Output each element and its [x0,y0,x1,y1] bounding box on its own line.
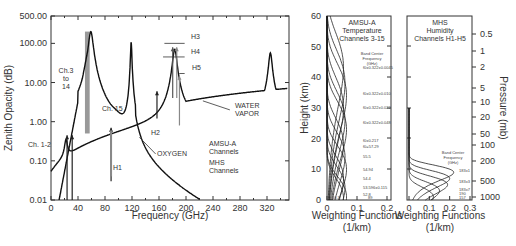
amsu-channel-label: f0±0.322±0.010 [363,91,392,96]
amsu-channel-label: 55.5 [363,154,372,159]
mhs-title-2: Humidity [426,27,454,35]
amsu-channel-label: f0±0.217 [363,138,379,143]
label-ch15: Ch. 15 [102,105,123,112]
amsu-weighting-curves [327,16,347,200]
pressure-tick-label: 100 [480,140,495,150]
pressure-tick-label: 5 [480,83,485,93]
height-axis-label: Height (km) [299,82,310,134]
pressure-axis-label: Pressure (mb) [498,76,509,139]
label-ch1-2: Ch. 1-2 [28,141,51,148]
ch3-14-band [85,32,90,134]
amsu-y-tick-label: 20 [311,134,321,144]
mhs-bcf-3: (GHz) [448,160,459,165]
amsu-channel-label: 54.94 [363,167,374,172]
amsu-y-tick-label: 10 [311,164,321,174]
main-x-tick-label: 320 [259,203,274,213]
amsu-y-tick-label: 30 [311,103,321,113]
main-x-tick-label: 40 [73,203,83,213]
label-vapor: VAPOR [235,110,259,117]
pressure-tick-label: 0.5 [480,29,493,39]
mhs-x-unit: (1/km) [426,222,454,233]
mhs-ticks: 00.10.20.30.51251020501002005001000 [387,29,500,213]
label-h3: H3 [191,33,200,40]
label-ch3: Ch.3 [59,67,74,74]
label-ch14: 14 [62,83,70,90]
amsu-channel-label: 54.4 [363,176,372,181]
pressure-tick-label: 20 [480,112,490,122]
pressure-tick-label: 1000 [480,192,500,202]
amsu-y-tick-label: 50 [311,42,321,52]
main-y-tick-label: 100.00 [19,38,47,48]
label-h4: H4 [191,48,200,55]
label-water: WATER [235,102,260,109]
main-y-tick-label: 500.00 [19,11,47,21]
amsu-channel-label: f0±0.322±0.0045 [363,65,394,70]
amsu-channel-labels: f0±0.322±0.0045f0±0.322±0.010f0±0.322±0.… [332,65,394,200]
amsu-channel-label: 89 [368,195,373,200]
chart-canvas: 04080120160200240280320 0.010.101.0010.0… [0,0,516,246]
mhs-channel-label: 183±3 [459,179,471,184]
main-y-tick-label: 1.00 [29,117,47,127]
amsu-y-tick-label: 0 [316,195,321,205]
main-y-label: Zenith Opacity (dB) [3,65,14,151]
legend-amsu-2: Channels [209,148,239,155]
pressure-tick-label: 2 [480,62,485,72]
label-oxygen: OXYGEN [157,150,187,157]
main-y-tick-label: 0.10 [29,156,47,166]
amsu-channel-label: f0=57.29 [363,144,379,149]
amsu-channel-label: 53.596±0.115 [363,185,388,190]
mhs-channel-labels: 183±1183±3183±7190157 [459,168,471,200]
pressure-tick-label: 10 [480,97,490,107]
label-h2: H2 [151,129,160,136]
mhs-channel-label: 183±1 [459,168,471,173]
legend-mhs-1: MHS [209,159,225,166]
label-h5: H5 [192,64,201,71]
amsu-title-1: AMSU-A [348,19,376,26]
pressure-tick-label: 500 [480,176,495,186]
main-x-label: Frequency (GHz) [132,210,209,221]
amsu-title-3: Channels 3-15 [339,35,385,42]
amsu-title-2: Temperature [342,27,381,35]
amsu-channel-label: 50.3 [332,195,341,200]
amsu-x-label: Weighting Functions [312,210,402,221]
main-x-tick-label: 280 [232,203,247,213]
main-y-tick-label: 10.00 [24,78,47,88]
pressure-tick-label: 1 [480,46,485,56]
amsu-y-tick-label: 60 [311,11,321,21]
amsu-y-tick-label: 40 [311,72,321,82]
label-h1: H1 [113,164,122,171]
main-x-tick-label: 0 [48,203,53,213]
legend-mhs-2: Channels [209,167,239,174]
mhs-x-label: Weighting Functions [395,210,485,221]
amsu-x-unit: (1/km) [343,222,371,233]
main-y-tick-label: 0.01 [29,195,47,205]
mhs-title-3: Channels H1-H5 [414,35,466,42]
pressure-tick-label: 50 [480,129,490,139]
label-ch3-to: to [63,75,69,82]
main-x-tick-label: 80 [100,203,110,213]
legend-amsu-1: AMSU-A [209,140,237,147]
mhs-weighting-curve [409,108,433,200]
mhs-weighting-curve [409,108,440,200]
mhs-channel-label: 157 [459,195,466,200]
amsu-channel-label: f0±0.322±0.048 [363,120,392,125]
pressure-tick-label: 200 [480,156,495,166]
mhs-title-1: MHS [432,19,448,26]
